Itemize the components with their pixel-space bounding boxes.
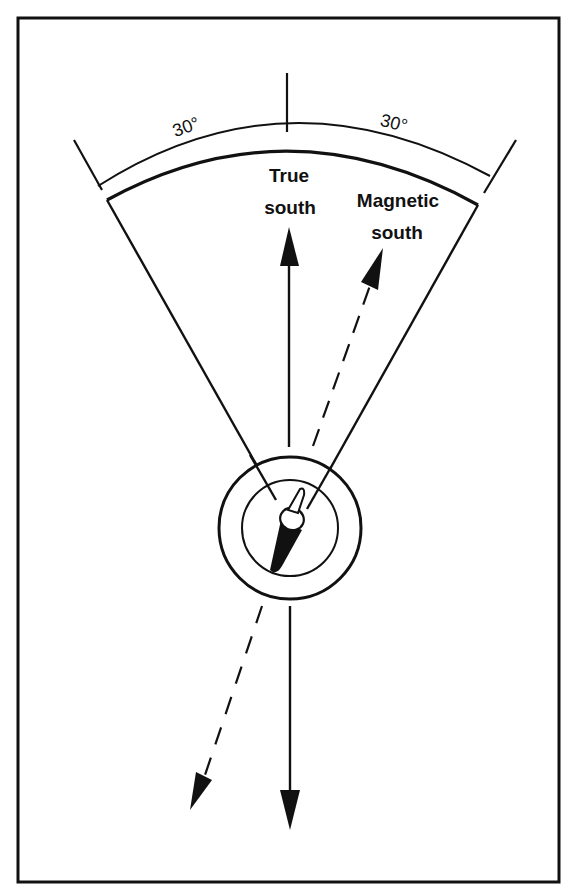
true-south-label-line2: south — [264, 197, 316, 218]
left-dimension-tick — [74, 140, 102, 190]
right-dimension-tick — [484, 140, 516, 193]
compass-declination-diagram: True south Magnetic south 30° 30° — [0, 0, 576, 890]
true-south-arrowhead-icon — [280, 227, 299, 266]
frame-border — [18, 18, 559, 882]
sector-right-edge — [307, 205, 478, 510]
true-north-arrowhead-icon — [280, 790, 300, 830]
true-south-label-line1: True — [269, 165, 309, 186]
magnetic-south-arrowhead-icon — [361, 248, 383, 290]
magnetic-south-dashed-shaft — [313, 280, 372, 446]
magnetic-south-label-line2: south — [371, 222, 423, 243]
magnetic-south-label-line1: Magnetic — [357, 190, 440, 211]
magnetic-north-arrowhead-icon — [190, 772, 212, 810]
magnetic-north-dashed-shaft — [204, 606, 262, 778]
sector-left-edge — [107, 200, 274, 496]
